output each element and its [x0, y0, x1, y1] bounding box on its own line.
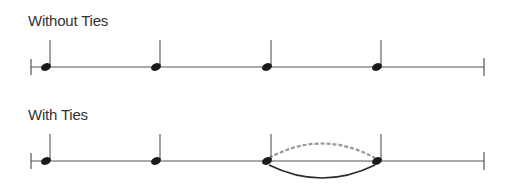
- tie-solid-arc: [269, 165, 375, 178]
- tie-dashed-arc: [269, 144, 375, 159]
- rhythm-diagram: [0, 0, 509, 184]
